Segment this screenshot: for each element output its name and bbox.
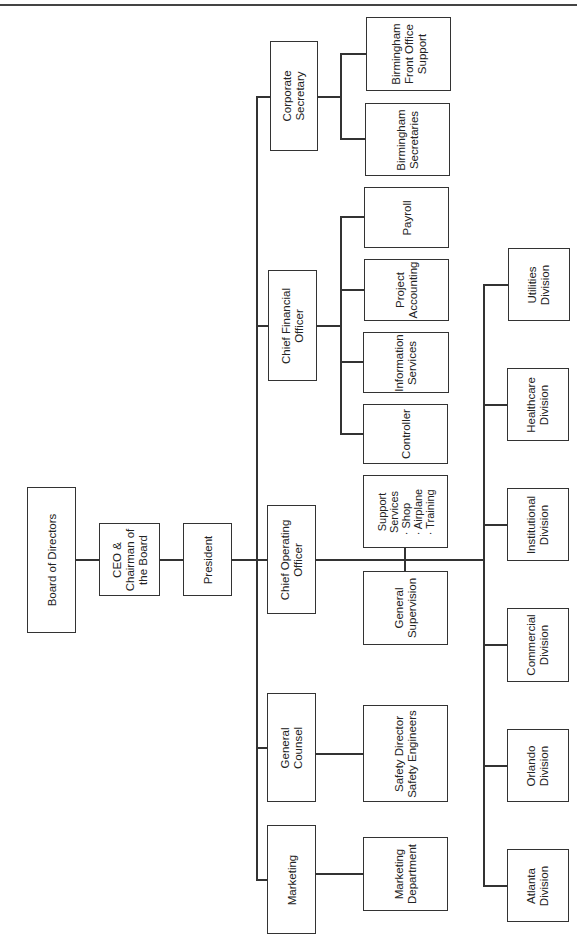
node-coo: Chief Operating Officer [267,505,316,614]
node-board-of-directors: Board of Directors [27,487,76,633]
node-bullet: · Airplane [412,488,424,534]
node-label: Corporate [281,70,294,121]
connector-bham-sec [340,138,365,140]
connector-atlanta [483,885,507,887]
connector-commercial [483,644,507,646]
node-label: Orlando [525,745,538,786]
node-corporate-secretary: Corporate Secretary [270,41,318,151]
node-general-counsel: General Counsel [267,693,316,802]
node-institutional-division: Institutional Division [507,488,569,561]
node-payroll: Payroll [364,187,449,248]
divisions-spine [483,284,485,886]
node-ceo: CEO & Chairman of the Board [99,523,160,596]
node-label: Secretaries [408,109,421,170]
node-label: Controller [399,409,412,459]
node-information-services: Information Services [363,332,449,393]
connector-coo-divisions [315,559,484,561]
node-label: Commercial [525,614,538,675]
node-utilities-division: Utilities Division [508,248,570,321]
node-label: Support [376,488,388,534]
node-birmingham-front-office: Birmingham Front Office Support [366,17,451,91]
node-label: Division [538,745,551,786]
node-label: Counsel [292,726,305,768]
node-label: General [393,578,406,638]
node-label: Marketing [285,854,298,905]
node-label: Payroll [400,200,413,235]
connector-spine-gc [256,747,267,749]
node-label: Division [538,495,551,553]
node-safety: Safety Director Safety Engineers [363,705,448,802]
node-label: the Board [136,528,149,591]
connector-spine-marketing [256,879,267,881]
node-label: Division [539,264,552,304]
node-controller: Controller [363,404,448,464]
connector-project-accounting [340,289,364,291]
node-commercial-division: Commercial Division [507,608,569,682]
connector-info-services [340,361,363,363]
node-label: Support [415,23,428,84]
node-atlanta-division: Atlanta Division [507,849,569,922]
node-label: Healthcare [525,377,538,433]
officer-spine [256,96,258,880]
node-label: Services [406,334,419,392]
node-label: Safety Engineers [406,710,419,798]
node-label: Birmingham [389,23,402,84]
node-marketing: Marketing [267,825,316,934]
connector-utilities [483,284,508,286]
connector-controller [340,433,363,435]
node-label: Safety Director [393,710,406,798]
node-support-services: Support Services · Shop · Airplane · Tra… [363,475,448,548]
node-label: Board of Directors [45,514,58,607]
node-healthcare-division: Healthcare Division [507,368,569,441]
node-label: Atlanta [525,865,538,905]
node-label: Birmingham [395,109,408,170]
connector-ceo-president [159,559,183,561]
connector-gc-safety [315,753,363,755]
connector-board-ceo [75,559,99,561]
node-label: Information [393,334,406,392]
connector-president-spine [231,559,267,561]
node-cfo: Chief Financial Officer [268,270,317,381]
node-label: Department [406,844,419,904]
node-label: Division [538,614,551,675]
node-label: Chairman of [123,528,136,591]
connector-bham-front [340,53,366,55]
node-label: Front Office [402,23,415,84]
node-label: Chief Operating [279,519,292,600]
node-label: Division [538,865,551,905]
node-label: Accounting [407,262,420,319]
node-orlando-division: Orlando Division [507,729,569,802]
node-label: Secretary [294,70,307,121]
connector-orlando [483,765,507,767]
node-label: President [201,535,214,584]
node-label: Institutional [525,495,538,553]
node-bullet: · Shop [400,488,412,534]
node-label: Utilities [526,264,539,304]
connector-healthcare [483,404,507,406]
node-label: Supervision [406,578,419,638]
connector-spine-cfo [256,325,268,327]
node-general-supervision: General Supervision [363,571,448,645]
page-top-rule [0,4,577,6]
node-label: Marketing [393,844,406,904]
node-birmingham-secretaries: Birmingham Secretaries [365,103,450,176]
connector-cfo-sub [316,325,341,327]
corpsec-subspine [340,53,342,139]
connector-payroll [340,216,364,218]
node-label: Officer [292,519,305,600]
connector-spine-corpsec [256,96,270,98]
node-label: Officer [293,287,306,363]
cfo-subspine [340,216,342,434]
node-label: General [279,726,292,768]
node-label: Chief Financial [280,287,293,363]
connector-support-gs [404,547,406,571]
connector-marketing-dept [315,873,363,875]
node-marketing-department: Marketing Department [363,837,448,911]
node-bullet: · Training [424,488,436,534]
node-label: CEO & [110,528,123,591]
node-president: President [183,523,232,596]
connector-corpsec-sub [317,96,341,98]
node-label: Project [394,262,407,319]
node-label: Division [538,377,551,433]
connector-institutional [483,524,507,526]
